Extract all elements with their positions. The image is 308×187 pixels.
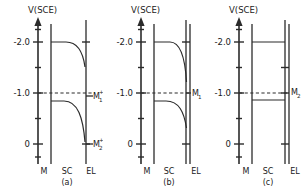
y-tick-label-minus2: -2.0	[13, 37, 30, 47]
phase-label-sc-c: SC	[263, 167, 274, 176]
redox-label-m1-sub-b: 1	[198, 94, 202, 100]
panel-a: V(SCE) -2.0 -1.0 0 M 1 +/0 M 2 +/0	[0, 0, 103, 187]
y-tick-label-minus1-b: -1.0	[116, 88, 133, 98]
valence-band-b	[154, 101, 187, 128]
conduction-band-a	[51, 42, 85, 67]
redox-label-m2-a: M 2 +/0	[93, 137, 103, 151]
y-tick-label-zero-b: 0	[128, 139, 133, 149]
axis-arrow-icon	[137, 17, 144, 26]
phase-label-sc-a: SC	[62, 167, 73, 176]
y-tick-label-minus2-b: -2.0	[116, 37, 133, 47]
y-tick-label-minus1-c: -1.0	[214, 88, 231, 98]
axis-label-b: V(SCE)	[131, 5, 160, 15]
potential-axis-a	[34, 17, 41, 164]
y-tick-label-minus2-c: -2.0	[214, 37, 231, 47]
axis-label-a: V(SCE)	[28, 5, 57, 15]
axis-arrow-icon	[34, 17, 41, 26]
potential-axis-b	[137, 17, 144, 164]
phase-label-metal-a: M	[41, 167, 48, 176]
y-tick-label-zero: 0	[25, 139, 30, 149]
phase-label-sc-b: SC	[164, 167, 175, 176]
valence-band-a	[51, 101, 85, 142]
potential-axis-c	[235, 17, 242, 164]
redox-label-m1-a: M 1 +/0	[93, 89, 103, 103]
y-tick-label-minus1: -1.0	[13, 88, 30, 98]
panel-caption-b: (b)	[163, 178, 174, 187]
phase-label-metal-b: M	[144, 167, 151, 176]
conduction-band-b	[154, 42, 187, 82]
phase-label-el-c: EL	[290, 167, 300, 176]
redox-label-m1-b: M 1	[192, 89, 202, 100]
phase-label-metal-c: M	[243, 167, 250, 176]
phase-label-el-b: EL	[191, 167, 201, 176]
panel-b: V(SCE) -2.0 -1.0 0 M 1 M SC EL (b)	[103, 0, 206, 187]
band-diagram-figure: V(SCE) -2.0 -1.0 0 M 1 +/0 M 2 +/0	[0, 0, 308, 187]
redox-label-m2-sub-c: 2	[297, 93, 301, 99]
y-tick-label-zero-c: 0	[226, 139, 231, 149]
axis-label-c: V(SCE)	[229, 5, 258, 15]
panel-c: V(SCE) -2.0 -1.0 0 M 2 M SC EL (c)	[206, 0, 308, 187]
panel-caption-a: (a)	[61, 178, 72, 187]
panel-caption-c: (c)	[263, 178, 274, 187]
axis-arrow-icon	[235, 17, 242, 26]
phase-label-el-a: EL	[86, 167, 96, 176]
redox-label-m2-c: M 2	[291, 88, 301, 99]
